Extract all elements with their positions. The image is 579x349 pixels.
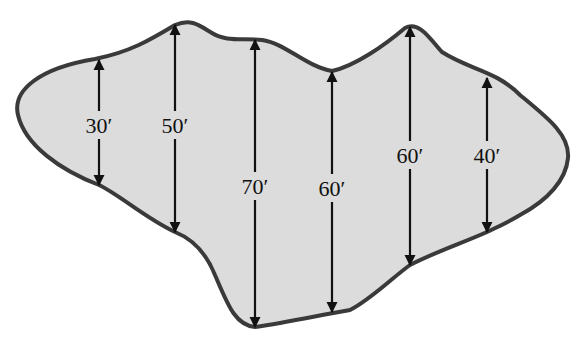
measurement-label: 40′ [474,143,501,168]
measurement-label: 30′ [86,113,113,138]
measurement-label: 70′ [242,174,269,199]
measurement-label: 50′ [162,113,189,138]
region-diagram: 30′50′70′60′60′40′ [0,0,579,349]
measurement-label: 60′ [397,143,424,168]
measurement-label: 60′ [319,176,346,201]
